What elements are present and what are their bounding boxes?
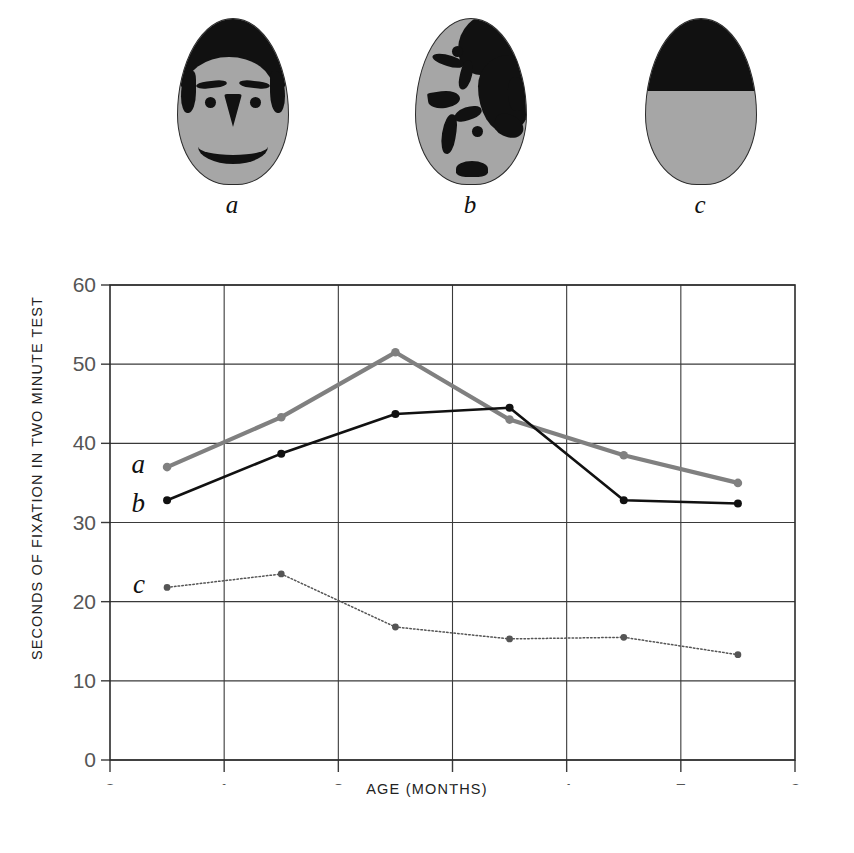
stimulus-a-caption: a <box>152 191 312 219</box>
face-oval-icon <box>177 18 289 185</box>
data-point-a <box>163 463 172 472</box>
y-tick-label: 0 <box>84 748 96 771</box>
data-point-b <box>506 404 514 412</box>
x-tick-label: 4 <box>561 779 573 785</box>
stimulus-a: a <box>152 18 312 253</box>
hair-side-left-icon <box>181 71 196 113</box>
data-point-b <box>391 410 399 418</box>
data-point-a <box>734 479 743 488</box>
series-label-c: c <box>133 569 145 599</box>
x-tick-label: 3 <box>447 779 459 785</box>
data-point-b <box>734 500 742 508</box>
data-point-b <box>620 496 628 504</box>
scramble-blob-icon <box>453 103 484 125</box>
data-point-b <box>163 496 171 504</box>
fixation-line-chart: SECONDS OF FIXATION IN TWO MINUTE TEST A… <box>0 255 854 853</box>
y-tick-label: 40 <box>73 431 96 454</box>
data-point-a <box>505 415 514 424</box>
stimulus-b: b <box>390 18 550 253</box>
y-tick-label: 60 <box>73 273 96 296</box>
x-tick-label: 0 <box>104 779 116 785</box>
data-point-a <box>619 451 628 460</box>
data-point-a <box>391 348 400 357</box>
scramble-blob-icon <box>452 46 463 57</box>
data-point-c <box>735 651 742 658</box>
data-point-c <box>620 634 627 641</box>
eye-right-icon <box>250 97 261 108</box>
x-tick-label: 2 <box>332 779 344 785</box>
stimulus-b-artwork <box>415 18 525 183</box>
data-point-c <box>392 624 399 631</box>
x-tick-label: 5 <box>675 779 687 785</box>
data-point-c <box>164 584 171 591</box>
x-tick-label: 6 <box>789 779 801 785</box>
scramble-blob-icon <box>472 126 483 137</box>
data-point-c <box>506 635 513 642</box>
stimulus-row: a b c <box>0 0 854 255</box>
stimulus-c: c <box>620 18 780 253</box>
scramble-blob-icon <box>456 161 488 177</box>
series-label-b: b <box>132 488 146 518</box>
nose-icon <box>224 94 242 127</box>
series-label-a: a <box>132 449 146 479</box>
mouth-icon <box>198 129 268 164</box>
control-black-half-icon <box>646 19 756 91</box>
stimulus-c-caption: c <box>620 191 780 219</box>
plot-area: 01020304050600123456abc <box>0 255 854 785</box>
y-tick-label: 20 <box>73 590 96 613</box>
scramble-blob-icon <box>427 89 461 110</box>
control-oval-icon <box>645 18 757 185</box>
data-point-b <box>277 450 285 458</box>
stimulus-a-artwork <box>177 18 287 183</box>
eye-left-icon <box>205 97 216 108</box>
data-point-c <box>278 571 285 578</box>
y-tick-label: 50 <box>73 352 96 375</box>
data-point-a <box>277 413 286 422</box>
y-tick-label: 10 <box>73 669 96 692</box>
scrambled-oval-icon <box>415 18 527 185</box>
stimulus-c-artwork <box>645 18 755 183</box>
scramble-blob-icon <box>508 77 526 111</box>
stimulus-b-caption: b <box>390 191 550 219</box>
x-tick-label: 1 <box>218 779 230 785</box>
y-tick-label: 30 <box>73 511 96 534</box>
